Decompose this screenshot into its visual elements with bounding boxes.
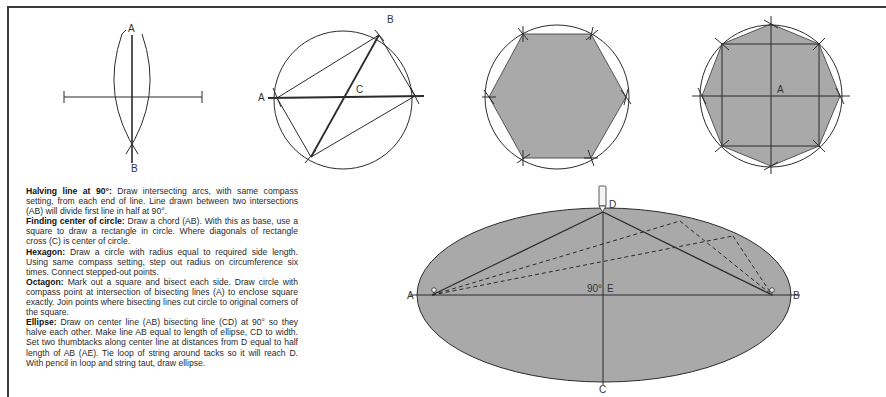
label-c: C [599, 384, 606, 395]
instruction-hexagon: Hexagon: Draw a circle with radius equal… [26, 247, 298, 277]
label-a: A [777, 84, 784, 95]
figure-halving-line [64, 30, 202, 163]
instruction-circle-center: Finding center of circle: Draw a chord (… [26, 216, 298, 246]
figure-hexagon [482, 25, 631, 169]
label-b: B [793, 290, 800, 301]
instruction-octagon: Octagon: Mark out a square and bisect ea… [26, 277, 298, 317]
instructions-text: Halving line at 90°: Draw intersecting a… [26, 186, 298, 368]
instruction-halving-line: Halving line at 90°: Draw intersecting a… [26, 186, 298, 216]
label-a: A [258, 92, 265, 103]
label-e: E [607, 283, 614, 294]
label-d: D [609, 199, 616, 210]
label-b: B [387, 14, 394, 25]
figure-circle-center [268, 30, 424, 169]
figure-octagon [692, 16, 850, 174]
label-c: C [356, 84, 363, 95]
figure-ellipse [410, 208, 800, 385]
instruction-ellipse: Ellipse: Draw on center line (AB) bisect… [26, 317, 298, 367]
label-b: B [131, 163, 138, 174]
label-a: A [407, 290, 414, 301]
label-a: A [128, 23, 135, 34]
pencil-icon [599, 186, 606, 212]
label-angle: 90° [587, 283, 602, 294]
